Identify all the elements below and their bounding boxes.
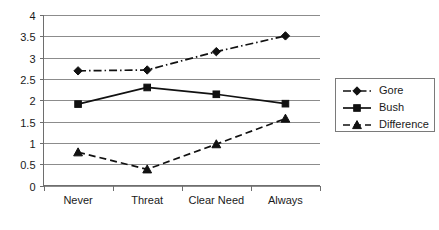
data-point-gore-2 xyxy=(212,47,220,55)
y-axis-tick-label: 0 xyxy=(29,181,35,193)
line-chart: 00.511.522.533.54 NeverThreatClear NeedA… xyxy=(0,0,439,230)
y-axis-tick-label: 0.5 xyxy=(20,159,35,171)
y-axis-tick-label: 1 xyxy=(29,138,35,150)
data-point-gore-1 xyxy=(143,66,151,74)
x-axis-category-labels: NeverThreatClear NeedAlways xyxy=(63,194,303,206)
x-axis-category-label: Never xyxy=(63,194,93,206)
y-axis-tick-label: 3 xyxy=(29,53,35,65)
data-point-difference-0 xyxy=(74,148,83,156)
x-axis-category-label: Always xyxy=(268,194,303,206)
data-point-bush-2 xyxy=(213,91,220,98)
series-line-bush xyxy=(78,87,285,104)
legend-label-bush: Bush xyxy=(379,101,404,113)
data-point-bush-1 xyxy=(144,84,151,91)
chart-plot-area: 00.511.522.533.54 NeverThreatClear NeedA… xyxy=(0,0,439,230)
data-point-bush-3 xyxy=(282,100,289,107)
gridlines xyxy=(44,16,321,187)
data-point-gore-0 xyxy=(74,67,82,75)
legend-label-difference: Difference xyxy=(379,118,429,130)
series-line-gore xyxy=(78,36,285,71)
x-axis-category-label: Clear Need xyxy=(188,194,244,206)
y-axis-tick-label: 2.5 xyxy=(20,74,35,86)
legend-label-gore: Gore xyxy=(379,84,403,96)
series-gore xyxy=(74,32,290,75)
legend-marker-bush xyxy=(354,105,361,112)
x-axis-category-label: Threat xyxy=(131,194,163,206)
y-axis-tick-label: 4 xyxy=(29,10,35,22)
data-point-gore-3 xyxy=(281,32,289,40)
y-axis-tick-label: 3.5 xyxy=(20,31,35,43)
data-series xyxy=(74,32,290,173)
data-point-bush-0 xyxy=(75,101,82,108)
data-point-difference-3 xyxy=(281,114,290,122)
series-bush xyxy=(75,84,289,107)
y-axis-tick-label: 2 xyxy=(29,95,35,107)
y-axis-tick-labels: 00.511.522.533.54 xyxy=(20,10,35,193)
y-axis-tick-label: 1.5 xyxy=(20,117,35,129)
